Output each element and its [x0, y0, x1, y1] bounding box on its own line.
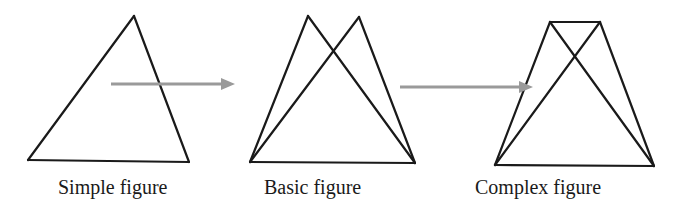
figure-edge [308, 16, 415, 163]
figure-edge [495, 22, 550, 165]
figure-edge [495, 22, 600, 165]
complex-figure [495, 22, 654, 166]
figure-edge [28, 16, 134, 160]
complex-figure-label: Complex figure [475, 177, 601, 197]
simple-to-basic-arrow-icon [111, 78, 235, 90]
simple-figure-label: Simple figure [58, 177, 167, 197]
arrows-layer [111, 78, 533, 93]
basic-to-complex-arrow-icon [400, 81, 533, 93]
figure-edge [495, 165, 654, 166]
figure-edge [134, 16, 189, 162]
figure-edge [359, 17, 415, 163]
figure-edge [250, 162, 415, 163]
basic-figure-label: Basic figure [264, 177, 361, 197]
figures-layer [28, 16, 654, 166]
figure-edge [550, 22, 654, 166]
simple-figure [28, 16, 189, 162]
basic-figure [250, 16, 415, 163]
figure-edge [250, 16, 308, 162]
figure-edge [600, 22, 654, 166]
figure-edge [28, 160, 189, 162]
figure-edge [250, 17, 359, 162]
